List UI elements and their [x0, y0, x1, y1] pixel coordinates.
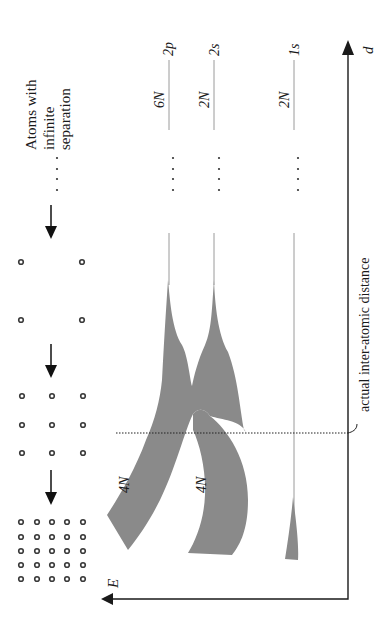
d-axis-arrow-icon — [342, 40, 354, 55]
arrow-down-icon-1 — [45, 205, 57, 239]
degeneracy-2s: 2N — [197, 91, 212, 108]
e-axis-label: E — [105, 579, 121, 589]
ellipsis-dots-levels — [172, 157, 299, 191]
arrow-down-icon-2 — [45, 344, 57, 378]
level-2p-label: 2p — [161, 42, 176, 56]
band-label-lower: 4N — [194, 476, 209, 493]
e-axis-arrow-icon — [101, 593, 113, 605]
energy-levels-isolated — [169, 60, 294, 130]
level-labels: 2p 2s 1s 6N 2N 2N — [152, 42, 302, 108]
band-label-upper: 4N — [117, 476, 132, 493]
atom-grid-5x5 — [19, 520, 86, 582]
actual-distance-label: actual inter-atomic distance — [357, 258, 372, 412]
energy-band-diagram: Atoms with infinite separation — [0, 0, 385, 630]
arrow-down-icon-3 — [45, 470, 57, 505]
level-2s-label: 2s — [207, 43, 222, 56]
svg-text:infinite: infinite — [41, 106, 57, 150]
level-1s-label: 1s — [287, 43, 302, 56]
d-axis-label: d — [360, 46, 376, 54]
band-1s — [285, 497, 298, 560]
ellipsis-dots-atoms — [56, 157, 58, 191]
svg-text:separation: separation — [57, 88, 73, 150]
actual-distance-leader — [348, 424, 357, 433]
infinite-separation-label: Atoms with infinite separation — [23, 79, 73, 150]
degeneracy-2p: 6N — [152, 91, 167, 108]
svg-text:Atoms with: Atoms with — [23, 79, 39, 150]
atom-grid-2x2 — [19, 260, 85, 323]
atom-grid-3x3 — [20, 394, 86, 456]
degeneracy-1s: 2N — [277, 91, 292, 108]
